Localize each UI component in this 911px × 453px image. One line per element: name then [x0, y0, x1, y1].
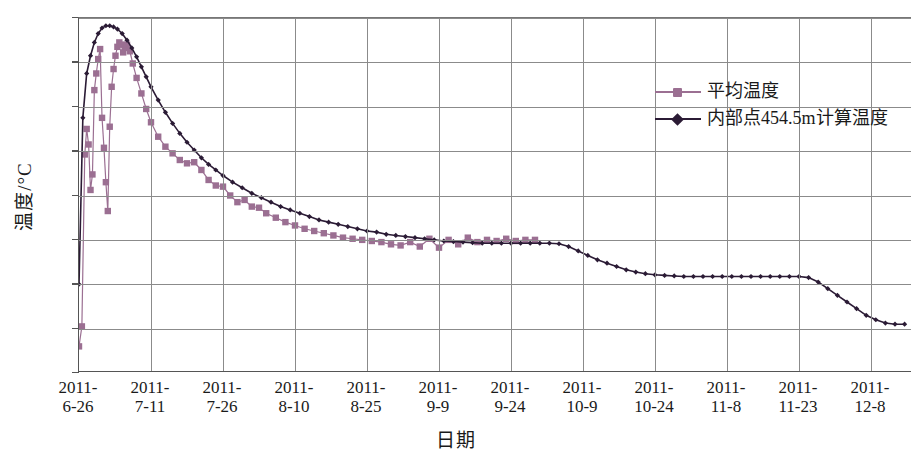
- gridline-vertical: [583, 18, 584, 371]
- gridline-vertical: [223, 18, 224, 371]
- gridline-vertical: [871, 18, 872, 371]
- gridline-vertical: [295, 18, 296, 371]
- series-line: [79, 42, 535, 346]
- x-axis-title: 日期: [0, 425, 911, 452]
- temperature-time-series-chart: 温度/°C 日期 40363228242016128 2011-6-262011…: [0, 0, 911, 453]
- x-tick-label: 2011-12-8: [833, 378, 907, 416]
- x-tick-label: 2011-6-26: [41, 378, 115, 416]
- x-tick-label: 2011-11-8: [689, 378, 763, 416]
- x-tick-label: 2011-10-9: [545, 378, 619, 416]
- legend-label: 平均温度: [707, 78, 779, 105]
- gridline-vertical: [655, 18, 656, 371]
- gridline-vertical: [799, 18, 800, 371]
- y-tick-mark: [72, 372, 79, 373]
- legend-diamond-icon: [671, 113, 684, 126]
- x-tick-label: 2011-10-24: [617, 378, 691, 416]
- series-measured: [79, 39, 538, 349]
- gridline-horizontal: [79, 240, 911, 241]
- legend-item: 平均温度: [655, 78, 911, 105]
- plot-area: [78, 17, 911, 372]
- x-tick-label: 2011-9-9: [401, 378, 475, 416]
- legend-label: 内部点454.5m计算温度: [707, 105, 888, 132]
- gridline-horizontal: [79, 151, 911, 152]
- gridline-horizontal: [79, 18, 911, 19]
- x-tick-label: 2011-8-10: [257, 378, 331, 416]
- gridline-vertical: [511, 18, 512, 371]
- chart-legend: 平均温度内部点454.5m计算温度: [655, 78, 911, 132]
- gridline-horizontal: [79, 196, 911, 197]
- x-tick-label: 2011-9-24: [473, 378, 547, 416]
- gridline-vertical: [151, 18, 152, 371]
- gridline-vertical: [367, 18, 368, 371]
- x-tick-label: 2011-11-23: [761, 378, 835, 416]
- y-axis-title: 温度/°C: [9, 137, 36, 257]
- gridline-vertical: [439, 18, 440, 371]
- x-tick-label: 2011-8-25: [329, 378, 403, 416]
- x-tick-label: 2011-7-26: [185, 378, 259, 416]
- legend-key: [655, 113, 701, 125]
- series-calculated: [79, 23, 907, 327]
- gridline-horizontal: [79, 62, 911, 63]
- series-line: [79, 26, 905, 324]
- gridline-horizontal: [79, 284, 911, 285]
- legend-key: [655, 86, 701, 98]
- x-tick-label: 2011-7-11: [113, 378, 187, 416]
- gridline-vertical: [727, 18, 728, 371]
- legend-item: 内部点454.5m计算温度: [655, 105, 911, 132]
- gridline-horizontal: [79, 329, 911, 330]
- legend-square-icon: [673, 88, 682, 97]
